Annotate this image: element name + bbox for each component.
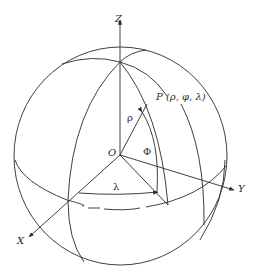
radius-label: ρ [127, 113, 133, 123]
meridian-p-far [181, 104, 204, 225]
x-axis [29, 155, 120, 237]
diagram-canvas [0, 0, 256, 275]
equator-right [146, 166, 226, 207]
lambda-arc [79, 192, 158, 194]
cap-arc-right [120, 50, 146, 62]
point-label: P (ρ, φ, λ) [156, 92, 206, 102]
meridian-p [120, 62, 168, 205]
azimuth-label: λ [113, 182, 119, 192]
z-axis-label: Z [115, 14, 122, 24]
y-axis-label: Y [238, 184, 245, 194]
polar-angle-label: Φ [143, 147, 151, 157]
origin-label: O [108, 148, 116, 158]
spherical-coordinates-diagram: Z X Y O P (ρ, φ, λ) ρ Φ λ [0, 0, 256, 275]
equator-dash-2 [104, 208, 140, 210]
x-axis-label: X [17, 236, 24, 246]
equator-left [15, 160, 84, 206]
